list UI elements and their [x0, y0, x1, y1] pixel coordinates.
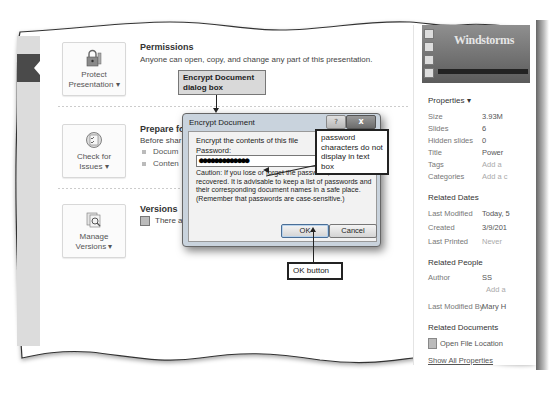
callout-ok-button: OK button [287, 262, 343, 280]
permissions-title: Permissions [140, 42, 194, 52]
ok-button[interactable]: OK [281, 224, 329, 238]
prepare-for-sharing-title: Prepare fo [140, 124, 185, 134]
document-properties-panel: Windstorms Properties ▾ Size3.93M Slides… [413, 25, 537, 365]
thumbnail-title: Windstorms [454, 33, 514, 48]
related-people-header: Related People [428, 258, 483, 267]
thumbnail-slide-strip [424, 29, 434, 77]
section-divider [58, 106, 408, 107]
callout-dialog-box: Encrypt Document dialog box [178, 70, 266, 95]
password-label: Password: [196, 146, 231, 155]
protect-presentation-button[interactable]: Protect Presentation ▾ [62, 42, 126, 96]
related-documents-header: Related Documents [428, 323, 498, 332]
encrypt-instruction: Encrypt the contents of this file [196, 136, 298, 145]
protect-label-1: Protect [63, 70, 125, 80]
arrowhead-icon [213, 108, 219, 113]
arrowhead-icon [263, 167, 269, 173]
callout-password-note: password characters do not display in te… [315, 129, 389, 175]
properties-dropdown[interactable]: Properties ▾ [428, 96, 471, 105]
check-for-issues-button[interactable]: Check for Issues ▾ [62, 124, 126, 178]
page-edge-shadow [536, 20, 549, 370]
prepare-description: Before shar [140, 136, 181, 145]
slide-thumbnail[interactable]: Windstorms [422, 25, 530, 83]
thumbnail-bar [438, 69, 528, 74]
permissions-description: Anyone can open, copy, and change any pa… [140, 55, 372, 64]
manage-label-2: Versions ▾ [63, 242, 125, 252]
check-label-1: Check for [63, 152, 125, 162]
help-icon: ? [334, 118, 338, 126]
close-icon: x [358, 117, 363, 126]
section-divider [58, 188, 188, 189]
close-button[interactable]: x [346, 115, 376, 129]
versions-description: There a [140, 216, 183, 226]
callout-arrow [313, 229, 314, 262]
lock-key-icon [84, 48, 104, 68]
figure: Protect Presentation ▾ Permissions Anyon… [0, 0, 549, 396]
protect-label-2: Presentation ▾ [63, 80, 125, 90]
version-doc-icon [140, 216, 150, 226]
manage-versions-button[interactable]: Manage Versions ▾ [62, 204, 126, 258]
callout-arrow [216, 95, 217, 109]
manage-label-1: Manage [63, 232, 125, 242]
folder-icon [428, 338, 437, 349]
prepare-bullet-2: Conten [142, 159, 179, 168]
cancel-button[interactable]: Cancel [329, 224, 377, 238]
checklist-icon [84, 130, 104, 150]
prepare-bullet-1: Docum [142, 147, 178, 156]
related-dates-header: Related Dates [428, 193, 479, 202]
versions-icon [84, 210, 104, 230]
show-all-properties-link[interactable]: Show All Properties [428, 356, 493, 365]
check-label-2: Issues ▾ [63, 162, 125, 172]
arrowhead-icon [310, 227, 316, 232]
dialog-title: Encrypt Document [189, 118, 255, 127]
versions-title: Versions [140, 204, 178, 214]
help-button[interactable]: ? [326, 115, 346, 129]
